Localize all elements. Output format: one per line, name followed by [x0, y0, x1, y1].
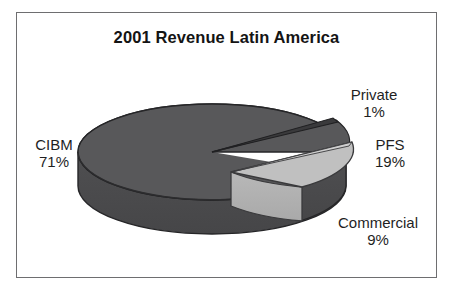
slice-label-private: Private 1% — [322, 86, 426, 121]
slice-label-commercial: Commercial 9% — [316, 214, 440, 249]
slice-label-cibm: CIBM 71% — [14, 136, 94, 171]
slice-label-pfs-name: PFS — [352, 136, 428, 153]
slice-label-cibm-name: CIBM — [14, 136, 94, 153]
slice-label-private-name: Private — [322, 86, 426, 103]
slice-label-commercial-name: Commercial — [316, 214, 440, 231]
slice-label-private-value: 1% — [322, 103, 426, 120]
slice-label-cibm-value: 71% — [14, 153, 94, 170]
slice-label-pfs-value: 19% — [352, 153, 428, 170]
figure-root: 2001 Revenue Latin America — [0, 0, 449, 288]
slice-label-pfs: PFS 19% — [352, 136, 428, 171]
slice-label-commercial-value: 9% — [316, 231, 440, 248]
